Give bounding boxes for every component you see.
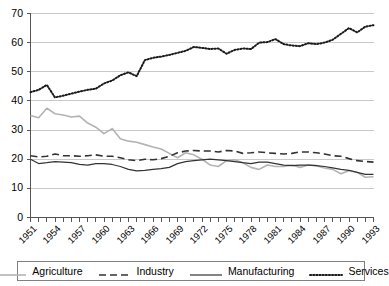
series-line-agriculture — [31, 108, 374, 177]
legend-swatch-icon — [309, 266, 343, 276]
legend-swatch-icon — [0, 266, 27, 276]
legend-item-industry[interactable]: Industry — [98, 266, 189, 277]
chart-legend: AgricultureIndustryManufacturingServices — [17, 261, 365, 281]
legend-item-manufacturing[interactable]: Manufacturing — [189, 266, 310, 277]
y-tick-label: 30 — [0, 124, 23, 134]
legend-label: Industry — [137, 266, 174, 277]
legend-label: Services — [348, 266, 388, 277]
legend-swatch-icon — [98, 266, 132, 276]
y-tick-label: 70 — [0, 8, 23, 18]
legend-label: Manufacturing — [228, 266, 295, 277]
series-line-services — [31, 25, 374, 97]
y-tick-label: 20 — [0, 153, 23, 163]
y-tick-label: 0 — [0, 212, 23, 222]
legend-item-services[interactable]: Services — [309, 266, 388, 277]
legend-swatch-icon — [189, 266, 223, 276]
y-tick-label: 10 — [0, 182, 23, 192]
legend-label: Agriculture — [32, 266, 82, 277]
y-tick-label: 50 — [0, 66, 23, 76]
y-tick-label: 40 — [0, 95, 23, 105]
series-line-manufacturing — [31, 159, 374, 174]
y-tick-label: 60 — [0, 37, 23, 47]
legend-item-agriculture[interactable]: Agriculture — [0, 266, 98, 277]
